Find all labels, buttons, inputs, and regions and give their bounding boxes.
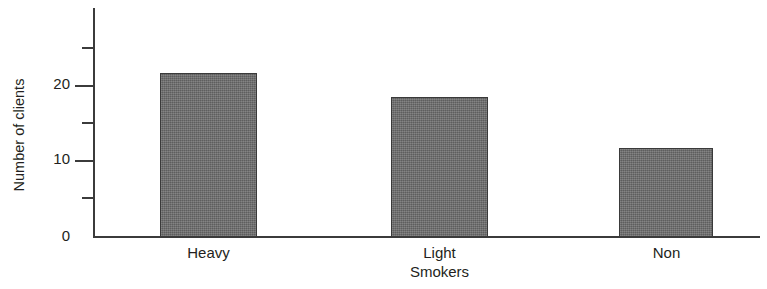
y-tick-10 xyxy=(75,160,94,162)
bar-chart-figure: Number of clients 20 10 0 Heavy Light No… xyxy=(0,0,767,289)
bar-light xyxy=(391,97,488,238)
y-tick-15 xyxy=(82,122,94,124)
x-axis-title: Smokers xyxy=(389,262,490,281)
y-tick-label-0: 0 xyxy=(30,228,70,244)
category-label-light: Light xyxy=(389,243,490,262)
category-label-non: Non xyxy=(616,243,717,262)
y-tick-20 xyxy=(75,85,94,87)
y-tick-label-10: 10 xyxy=(30,151,70,167)
category-label-heavy: Heavy xyxy=(158,243,259,262)
y-tick-25 xyxy=(82,47,94,49)
y-tick-label-20: 20 xyxy=(30,76,70,92)
bar-heavy xyxy=(160,73,257,237)
bar-non xyxy=(619,148,713,238)
plot-area: 20 10 0 Heavy Light Non Smokers xyxy=(0,0,767,289)
y-tick-5 xyxy=(82,197,94,199)
